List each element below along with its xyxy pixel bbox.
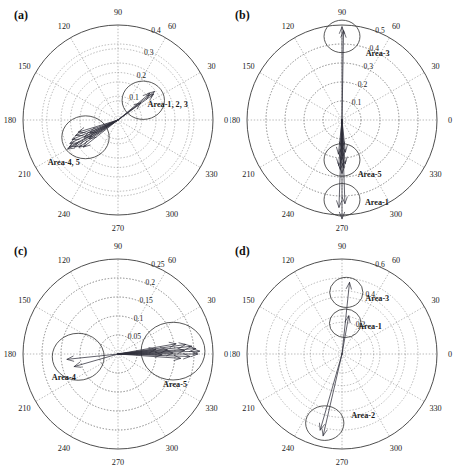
- area-annotation-label: Area-1: [358, 322, 382, 331]
- angular-tick-label-180: 180: [4, 116, 16, 125]
- grid-spoke-330: [342, 120, 424, 168]
- grid-spoke-210: [260, 354, 342, 402]
- radial-tick-label-0.2: 0.2: [137, 71, 147, 80]
- angular-tick-label-150: 150: [242, 62, 254, 71]
- panel-c: (c) 03060901201501802102402703003300.050…: [0, 236, 230, 472]
- vector-arrow: [83, 120, 118, 147]
- radial-tick-label-0.2: 0.2: [145, 278, 155, 287]
- grid-spoke-30: [342, 307, 424, 355]
- radial-tick-label-0.25: 0.25: [151, 260, 164, 269]
- panel-d: (d) 03060901201501802102402703003300.20.…: [230, 236, 460, 472]
- radial-tick-label-0.15: 0.15: [140, 296, 153, 305]
- angular-tick-label-240: 240: [282, 444, 294, 453]
- grid-spoke-240: [71, 354, 119, 436]
- angular-tick-label-30: 30: [207, 296, 215, 305]
- angular-tick-label-30: 30: [207, 62, 215, 71]
- angular-tick-label-90: 90: [338, 8, 346, 17]
- grid-spoke-150: [36, 307, 118, 355]
- panel-a: (a) 03060901201501802102402703003300.10.…: [0, 0, 230, 236]
- area-annotation-label: Area-3: [366, 49, 390, 58]
- angular-tick-label-300: 300: [390, 444, 402, 453]
- area-annotation-label: Area-4, 5: [48, 158, 80, 167]
- area-annotation-label: Area-1: [365, 198, 389, 207]
- angular-tick-label-0: 0: [448, 116, 452, 125]
- angular-tick-label-150: 150: [242, 296, 254, 305]
- angular-tick-label-120: 120: [282, 256, 294, 265]
- grid-spoke-240: [295, 354, 343, 436]
- radial-tick-label-0.3: 0.3: [144, 48, 154, 57]
- angular-tick-label-210: 210: [18, 404, 30, 413]
- angular-tick-label-60: 60: [392, 22, 400, 31]
- angular-tick-label-240: 240: [58, 210, 70, 219]
- area-annotation-label: Area-4: [52, 373, 76, 382]
- radial-tick-label-0.4: 0.4: [151, 26, 161, 35]
- angular-tick-label-330: 330: [429, 170, 441, 179]
- grid-spoke-150: [260, 73, 342, 121]
- angular-tick-label-330: 330: [205, 404, 217, 413]
- angular-tick-label-210: 210: [18, 170, 30, 179]
- angular-tick-label-270: 270: [336, 458, 348, 467]
- grid-spoke-210: [260, 120, 342, 168]
- angular-tick-label-60: 60: [168, 22, 176, 31]
- angular-tick-label-180: 180: [4, 350, 16, 359]
- angular-tick-label-240: 240: [282, 210, 294, 219]
- radial-tick-label-0.6: 0.6: [375, 260, 385, 269]
- panel-a-polar-plot: 03060901201501802102402703003300.10.20.3…: [0, 0, 230, 236]
- grid-spoke-330: [342, 354, 424, 402]
- angular-tick-label-90: 90: [114, 8, 122, 17]
- angular-tick-label-240: 240: [58, 444, 70, 453]
- angular-tick-label-270: 270: [112, 458, 124, 467]
- radial-tick-label-0.1: 0.1: [129, 93, 139, 102]
- panel-c-polar-plot: 03060901201501802102402703003300.050.10.…: [0, 236, 230, 472]
- angular-tick-label-330: 330: [429, 404, 441, 413]
- angular-tick-label-300: 300: [390, 210, 402, 219]
- grid-spoke-330: [118, 354, 200, 402]
- angular-tick-label-0: 0: [224, 116, 228, 125]
- grid-spoke-300: [342, 354, 390, 436]
- angular-tick-label-0: 0: [448, 350, 452, 359]
- angular-tick-label-30: 30: [431, 62, 439, 71]
- angular-tick-label-60: 60: [392, 256, 400, 265]
- angular-tick-label-300: 300: [166, 444, 178, 453]
- panel-b-polar-plot: 03060901201501802102402703003300.10.20.3…: [230, 0, 460, 236]
- angular-tick-label-300: 300: [166, 210, 178, 219]
- grid-spoke-120: [71, 272, 119, 354]
- angular-tick-label-90: 90: [114, 242, 122, 251]
- radial-tick-label-0.2: 0.2: [358, 80, 368, 89]
- angular-tick-label-180: 180: [230, 350, 240, 359]
- vector-arrow: [323, 354, 342, 436]
- grid-spoke-300: [118, 354, 166, 436]
- grid-spoke-210: [36, 354, 118, 402]
- grid-spoke-30: [342, 73, 424, 121]
- angular-tick-label-120: 120: [58, 22, 70, 31]
- grid-spoke-300: [342, 120, 390, 202]
- radial-tick-label-0.1: 0.1: [134, 314, 144, 323]
- radial-tick-label-0.1: 0.1: [352, 98, 362, 107]
- angular-tick-label-180: 180: [230, 116, 240, 125]
- area-annotation-label: Area-3: [365, 294, 389, 303]
- vector-arrow: [118, 103, 141, 120]
- angular-tick-label-90: 90: [338, 242, 346, 251]
- angular-tick-label-120: 120: [282, 22, 294, 31]
- angular-tick-label-60: 60: [168, 256, 176, 265]
- area-annotation-label: Area-5: [358, 170, 382, 179]
- angular-tick-label-270: 270: [112, 224, 124, 233]
- radial-tick-label-0.5: 0.5: [375, 26, 385, 35]
- angular-tick-label-150: 150: [18, 62, 30, 71]
- grid-spoke-150: [260, 307, 342, 355]
- angular-tick-label-30: 30: [431, 296, 439, 305]
- radial-tick-label-0.3: 0.3: [364, 62, 374, 71]
- angular-tick-label-270: 270: [336, 224, 348, 233]
- area-annotation-label: Area-1, 2, 3: [148, 100, 188, 109]
- angular-tick-label-120: 120: [58, 256, 70, 265]
- grid-spoke-240: [295, 120, 343, 202]
- grid-spoke-60: [118, 272, 166, 354]
- angular-tick-label-210: 210: [242, 404, 254, 413]
- panel-b: (b) 03060901201501802102402703003300.10.…: [230, 0, 460, 236]
- vector-arrow: [68, 120, 118, 149]
- cluster-outline-2: [306, 406, 344, 441]
- angular-tick-label-330: 330: [205, 170, 217, 179]
- angular-tick-label-150: 150: [18, 296, 30, 305]
- vector-arrow: [67, 354, 118, 359]
- angular-tick-label-210: 210: [242, 170, 254, 179]
